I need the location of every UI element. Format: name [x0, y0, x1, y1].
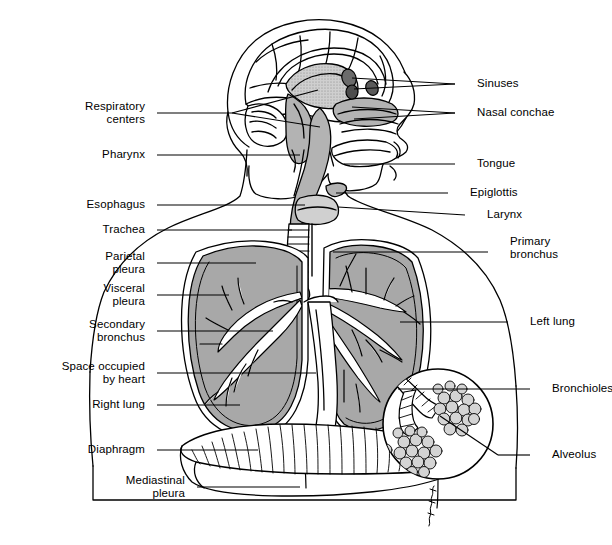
- right-lung: [182, 241, 309, 438]
- leader-larynx: [338, 207, 465, 215]
- label-nasal-conchae[interactable]: Nasal conchae: [477, 106, 554, 119]
- larynx: [295, 195, 338, 224]
- label-respiratory-centers[interactable]: Respiratory centers: [85, 100, 145, 126]
- label-right-lung[interactable]: Right lung: [92, 398, 145, 411]
- label-sinuses[interactable]: Sinuses: [477, 77, 519, 90]
- label-parietal-pleura[interactable]: Parietal pleura: [105, 250, 145, 276]
- anatomy-illustration: [0, 0, 612, 545]
- label-larynx[interactable]: Larynx: [487, 208, 522, 221]
- label-epiglottis[interactable]: Epiglottis: [470, 186, 518, 199]
- label-visceral-pleura[interactable]: Visceral pleura: [104, 282, 146, 308]
- respiratory-system-figure: Respiratory centers Pharynx Esophagus Tr…: [0, 0, 612, 545]
- label-diaphragm[interactable]: Diaphragm: [88, 443, 145, 456]
- label-bronchioles[interactable]: Bronchioles: [552, 382, 612, 395]
- label-tongue[interactable]: Tongue: [477, 157, 515, 170]
- artist-signature: [428, 486, 436, 526]
- label-secondary-bronchus[interactable]: Secondary bronchus: [89, 318, 145, 344]
- label-space-occupied-by-heart[interactable]: Space occupied by heart: [62, 360, 145, 386]
- label-left-lung[interactable]: Left lung: [530, 315, 575, 328]
- label-trachea[interactable]: Trachea: [103, 223, 145, 236]
- label-mediastinal-pleura[interactable]: Mediastinal pleura: [126, 474, 185, 500]
- epiglottis: [326, 183, 347, 197]
- label-pharynx[interactable]: Pharynx: [102, 148, 145, 161]
- label-primary-bronchus[interactable]: Primary bronchus: [510, 235, 558, 261]
- label-esophagus[interactable]: Esophagus: [87, 198, 145, 211]
- label-alveolus[interactable]: Alveolus: [552, 448, 596, 461]
